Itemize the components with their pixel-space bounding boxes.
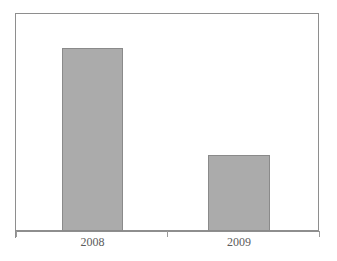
bar-2009 <box>208 155 270 231</box>
x-axis-label-2008: 2008 <box>62 234 123 250</box>
bars-layer <box>0 0 337 261</box>
x-axis-label-2009: 2009 <box>208 234 270 250</box>
bar-chart-screenshot: 2008 2009 <box>0 0 337 261</box>
bar-2008 <box>62 48 123 231</box>
